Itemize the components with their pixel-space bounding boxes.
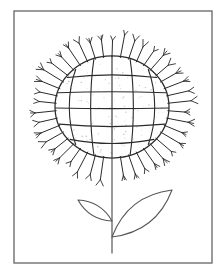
speckle-dot: [139, 85, 140, 86]
speckle-dot: [99, 151, 100, 152]
speckle-dot: [81, 96, 82, 97]
speckle-dot: [86, 139, 87, 140]
speckle-dot: [86, 88, 87, 89]
speckle-dot: [81, 100, 83, 102]
speckle-dot: [87, 72, 88, 73]
speckle-dot: [118, 77, 120, 79]
speckle-dot: [86, 82, 87, 83]
speckle-dot: [78, 100, 79, 101]
speckle-dot: [121, 144, 122, 145]
speckle-dot: [150, 89, 151, 90]
speckle-dot: [115, 60, 116, 61]
speckle-dot: [72, 86, 73, 87]
speckle-dot: [125, 131, 127, 133]
speckle-dot: [131, 117, 132, 118]
speckle-dot: [155, 82, 156, 83]
speckle-dot: [125, 119, 126, 120]
speckle-dot: [96, 110, 97, 111]
speckle-dot: [88, 103, 89, 104]
speckle-dot: [87, 77, 88, 78]
speckle-dot: [95, 117, 96, 118]
speckle-dot: [141, 129, 142, 130]
speckle-dot: [108, 116, 110, 118]
speckle-dot: [86, 136, 88, 138]
speckle-dot: [119, 85, 121, 87]
speckle-dot: [98, 88, 99, 89]
speckle-dot: [145, 87, 146, 88]
speckle-dot: [110, 77, 111, 78]
speckle-dot: [147, 87, 148, 88]
speckle-dot: [92, 123, 93, 124]
speckle-dot: [151, 97, 152, 98]
speckle-dot: [125, 112, 127, 114]
speckle-dot: [105, 79, 106, 80]
speckle-dot: [100, 64, 101, 65]
speckle-dot: [115, 78, 116, 79]
speckle-dot: [92, 95, 93, 96]
speckle-dot: [83, 77, 84, 78]
speckle-dot: [103, 97, 105, 99]
speckle-dot: [124, 121, 125, 122]
speckle-dot: [89, 139, 90, 140]
speckle-dot: [147, 80, 148, 81]
speckle-dot: [114, 139, 115, 140]
speckle-dot: [116, 116, 117, 117]
drawing-canvas: Flower Line Drawing: [0, 0, 223, 276]
speckle-dot: [120, 88, 121, 89]
speckle-dot: [158, 112, 159, 113]
speckle-dot: [124, 106, 126, 108]
speckle-dot: [116, 68, 117, 69]
speckle-dot: [141, 134, 142, 135]
speckle-dot: [135, 90, 136, 91]
speckle-dot: [73, 129, 75, 131]
speckle-dot: [141, 96, 142, 97]
speckle-dot: [122, 72, 123, 73]
speckle-dot: [100, 72, 101, 73]
speckle-dot: [124, 145, 125, 146]
speckle-dot: [75, 137, 76, 138]
petal-stalk: [112, 40, 113, 57]
speckle-dot: [125, 124, 127, 126]
speckle-dot: [149, 127, 150, 128]
speckle-dot: [145, 104, 146, 105]
speckle-dot: [81, 136, 82, 137]
speckle-dot: [137, 110, 138, 111]
speckle-dot: [123, 133, 125, 135]
speckle-dot: [82, 136, 84, 138]
speckle-dot: [148, 104, 149, 105]
speckle-dot: [127, 78, 128, 79]
speckle-dot: [118, 117, 119, 118]
speckle-dot: [98, 134, 99, 135]
flower-line-drawing: Flower Line Drawing: [0, 0, 223, 276]
speckle-dot: [115, 125, 116, 126]
speckle-dot: [81, 82, 82, 83]
speckle-dot: [97, 146, 99, 148]
speckle-dot: [76, 134, 77, 135]
speckle-dot: [124, 137, 125, 138]
speckle-dot: [98, 133, 99, 134]
speckle-dot: [151, 89, 152, 90]
speckle-dot: [122, 97, 124, 99]
speckle-dot: [87, 101, 88, 102]
speckle-dot: [115, 115, 116, 116]
speckle-dot: [136, 126, 137, 127]
speckle-dot: [66, 83, 67, 84]
speckle-dot: [93, 123, 94, 124]
speckle-dot: [108, 150, 109, 151]
speckle-dot: [162, 112, 163, 113]
speckle-dot: [69, 81, 70, 82]
speckle-dot: [100, 149, 101, 150]
speckle-dot: [94, 122, 95, 123]
speckle-dot: [110, 123, 112, 125]
speckle-dot: [89, 93, 90, 94]
speckle-dot: [111, 122, 112, 123]
speckle-dot: [133, 138, 135, 140]
speckle-dot: [139, 97, 140, 98]
speckle-dot: [114, 128, 115, 129]
speckle-dot: [108, 83, 109, 84]
speckle-dot: [101, 151, 102, 152]
speckle-dot: [114, 99, 115, 100]
speckle-dot: [73, 135, 74, 136]
speckle-dot: [143, 106, 144, 107]
